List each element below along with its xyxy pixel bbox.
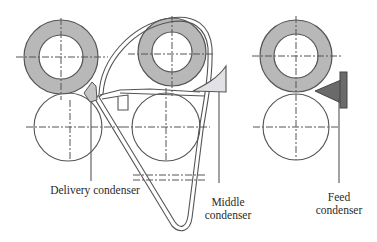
- middle-condenser-label-line1: Middle: [196, 196, 260, 209]
- feed-condenser-label-line2: condenser: [310, 204, 368, 217]
- feed-condenser-label: Feed condenser: [310, 191, 368, 217]
- middle-condenser-label: Middle condenser: [196, 196, 260, 222]
- delivery-condenser-label: Delivery condenser: [40, 184, 150, 197]
- middle-condenser-label-line2: condenser: [196, 209, 260, 222]
- feed-condenser-label-line1: Feed: [310, 191, 368, 204]
